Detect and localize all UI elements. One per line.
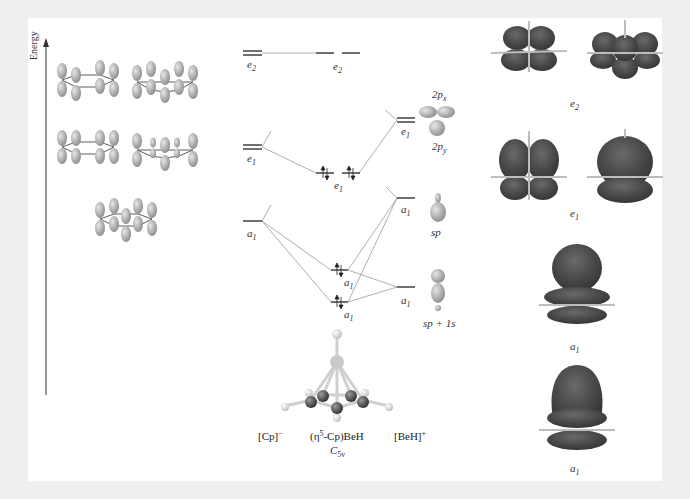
cp-levels [243,51,262,221]
mo-label-a1-upper: a1 [570,340,580,355]
svg-text:sp: sp [431,226,441,238]
mo-surface-e2-a [491,21,567,72]
mo-surface-e1-b [587,129,663,203]
svg-text:e2: e2 [333,60,342,75]
cp-orbital-e1-a [57,130,119,164]
label-point-group: C5v [330,444,345,459]
svg-text:e2: e2 [247,58,256,73]
svg-text:e1: e1 [401,125,410,140]
mo-surface-a1-lower [539,365,615,450]
axis-label: Energy [28,31,39,60]
mo-label-a1-lower: a1 [570,462,580,477]
mo-label-e2: e2 [570,97,579,112]
cp-orbital-e2-a [57,60,119,101]
beh-orbital-2py: 2py [429,120,447,155]
svg-text:a1: a1 [401,294,411,309]
beh-orbital-2px: 2px [419,88,455,118]
mo-surface-a1-upper [539,244,615,324]
label-cp-anion: [Cp]− [258,429,283,442]
label-complex: (η5-Cp)BeH [310,429,364,443]
beh-orbital-sp-1s: sp + 1s [423,269,455,329]
cp-orbital-a1 [95,198,157,242]
energy-axis: Energy [28,31,49,395]
svg-text:2py: 2py [432,140,447,155]
label-beh-cation: [BeH]+ [394,429,427,442]
svg-text:sp + 1s: sp + 1s [423,317,455,329]
mo-surface-e1-a [491,131,567,200]
cp-orbital-e1-b [132,133,198,171]
beh-level-labels: e1 a1 a1 [401,125,411,309]
cp-orbital-e2-b [132,61,198,103]
correlation-lines [262,53,397,302]
svg-text:a1: a1 [344,276,354,291]
complex-level-labels: e2 e1 a1 a1 [333,60,354,323]
mo-diagram: Energy [0,0,690,499]
arrow-up-icon [43,38,49,47]
cp-level-labels: e2 e1 a1 [247,58,257,242]
svg-text:a1: a1 [247,227,257,242]
beh-orbital-sp: sp [430,193,446,238]
cpbeh-molecule [281,329,393,422]
mo-surface-e2-b [587,20,663,79]
svg-text:2px: 2px [432,88,447,103]
mo-label-e1: e1 [570,207,579,222]
svg-text:e1: e1 [247,152,256,167]
svg-text:a1: a1 [401,203,411,218]
svg-text:a1: a1 [344,308,354,323]
svg-text:e1: e1 [334,179,343,194]
column-labels: [Cp]− (η5-Cp)BeH C5v [BeH]+ [258,429,427,459]
